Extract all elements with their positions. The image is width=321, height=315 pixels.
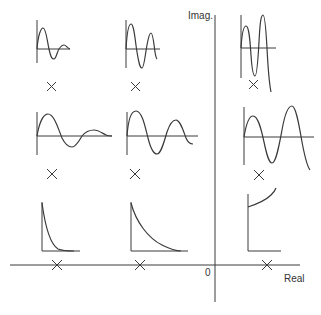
pole-marker-top-left [47, 82, 56, 91]
panel-middle-right [244, 106, 314, 180]
panel-top-left [37, 20, 70, 91]
panel-bottom-center [131, 202, 188, 270]
real-axis-label: Real [284, 274, 305, 284]
pole-marker-top-right [249, 80, 258, 89]
panel-bottom-right [248, 188, 281, 270]
pole-zero-diagram: Imag. Real 0 [0, 0, 321, 315]
panel-top-right [241, 15, 276, 92]
origin-label: 0 [205, 268, 211, 278]
panel-middle-center [127, 111, 198, 179]
imag-axis-label: Imag. [188, 11, 213, 21]
diagram-canvas [0, 0, 321, 315]
pole-marker-top-center [131, 82, 140, 91]
panel-middle-left [37, 112, 112, 179]
pole-marker-middle-center [130, 169, 140, 179]
pole-marker-middle-right [254, 170, 264, 180]
pole-marker-middle-left [47, 169, 57, 179]
panel-bottom-left [42, 202, 80, 270]
panel-top-center [126, 20, 160, 91]
